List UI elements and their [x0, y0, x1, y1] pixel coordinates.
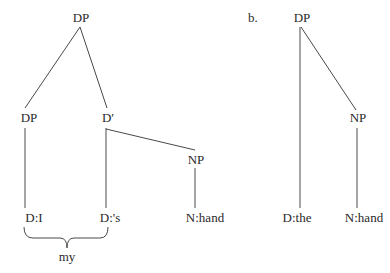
node-np: NP [188, 152, 205, 167]
tree-b: b. DP NP D:the N:hand [248, 10, 384, 225]
node-d-bar: D′ [102, 110, 114, 125]
brace-label-my: my [59, 249, 76, 264]
edge-dbar-to-np [106, 129, 195, 150]
edge-root-to-dbar [80, 27, 107, 108]
brace-icon [24, 227, 108, 248]
node-d-s: D:'s [100, 210, 120, 225]
tree-a: DP DP D′ NP D:I D:'s N:hand my [21, 10, 225, 264]
node-d-i: D:I [25, 210, 42, 225]
diagram-b-label: b. [248, 10, 258, 25]
node-root-dp: DP [73, 10, 90, 25]
node-b-n-hand: N:hand [345, 210, 384, 225]
node-b-np: NP [350, 110, 367, 125]
node-b-root-dp: DP [294, 10, 311, 25]
edge-root-to-spec [25, 27, 80, 108]
edge-b-root-to-np [301, 27, 356, 110]
node-spec-dp: DP [21, 110, 38, 125]
syntax-tree-canvas: DP DP D′ NP D:I D:'s N:hand my b. DP NP … [0, 0, 390, 273]
node-n-hand: N:hand [186, 210, 225, 225]
node-b-d-the: D:the [283, 210, 312, 225]
